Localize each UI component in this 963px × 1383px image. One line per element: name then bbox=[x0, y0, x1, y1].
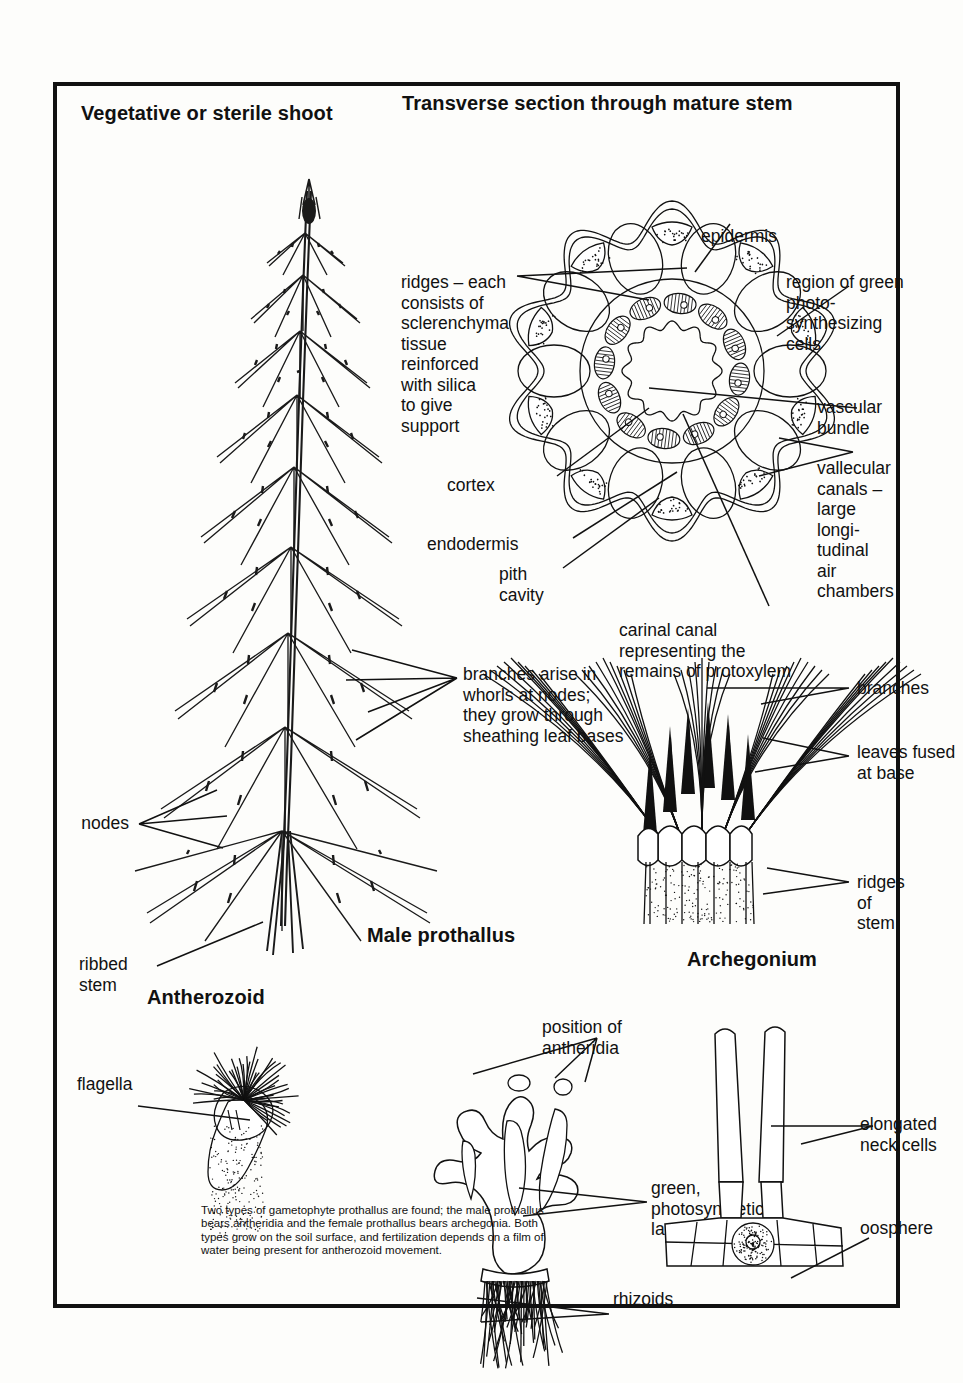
label-oosphere: oosphere bbox=[860, 1218, 933, 1239]
label-elongated-neck-cells: elongated neck cells bbox=[860, 1114, 937, 1155]
label-leaves-fused: leaves fused at base bbox=[857, 742, 955, 783]
label-endodermis: endodermis bbox=[427, 534, 518, 555]
label-region-green-cells: region of green photo- synthesizing cell… bbox=[786, 272, 904, 354]
vegetative-shoot-leaders bbox=[67, 566, 487, 966]
label-cortex: cortex bbox=[447, 475, 495, 496]
label-flagella: flagella bbox=[77, 1074, 132, 1095]
label-ridges: ridges – each consists of sclerenchyma t… bbox=[401, 272, 509, 436]
label-ribbed-stem: ribbed stem bbox=[79, 954, 128, 995]
label-ridges-of-stem: ridges of stem bbox=[857, 872, 905, 934]
title-vegetative-shoot: Vegetative or sterile shoot bbox=[81, 102, 333, 125]
label-position-antheridia: position of antheridia bbox=[542, 1017, 622, 1058]
label-rhizoids: rhizoids bbox=[613, 1289, 673, 1310]
label-vallecular-canals: vallecular canals – large longi- tudinal… bbox=[817, 458, 894, 602]
label-pith-cavity: pith cavity bbox=[499, 564, 544, 605]
antherozoid-leaders bbox=[132, 1086, 282, 1146]
diagram-plate: Vegetative or sterile shoot Transverse s… bbox=[53, 82, 900, 1308]
node-detail-leaders bbox=[697, 668, 927, 898]
title-archegonium: Archegonium bbox=[687, 948, 817, 971]
label-epidermis: epidermis bbox=[669, 226, 809, 247]
label-nodes: nodes bbox=[47, 813, 129, 834]
gametophyte-caption: Two types of gametophyte prothallus are … bbox=[201, 1204, 547, 1258]
label-vascular-bundle: vascular bundle bbox=[817, 397, 882, 438]
title-transverse-section: Transverse section through mature stem bbox=[402, 92, 793, 115]
label-branches: branches bbox=[857, 678, 929, 699]
title-antherozoid: Antherozoid bbox=[147, 986, 265, 1009]
